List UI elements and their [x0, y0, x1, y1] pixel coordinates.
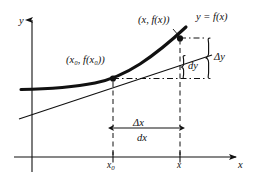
dy-label: dy [188, 61, 198, 72]
diagram-canvas [0, 0, 254, 180]
y-axis-label: y [19, 16, 24, 27]
delta-x-label: Δx [133, 118, 144, 129]
delta-y-brace [206, 38, 210, 79]
differentials-diagram: y x x0 x y = f(x) (x, f(x)) (x₀, f(x₀)) … [0, 0, 254, 180]
curve-equation-label: y = f(x) [196, 12, 228, 23]
x-tick-label-x0: x0 [107, 161, 115, 172]
x-axis-label: x [238, 160, 243, 171]
point-label-x0: (x₀, f(x₀)) [66, 55, 105, 66]
delta-y-label: Δy [214, 52, 225, 63]
dx-label: dx [137, 133, 147, 144]
x-tick-label-x0-sub: 0 [111, 164, 114, 171]
dy-brace [181, 56, 185, 79]
point-marker-x [177, 35, 183, 41]
x-tick-label-x: x [177, 161, 181, 171]
point-marker-x0 [110, 76, 116, 82]
point-label-x: (x, f(x)) [138, 15, 169, 26]
